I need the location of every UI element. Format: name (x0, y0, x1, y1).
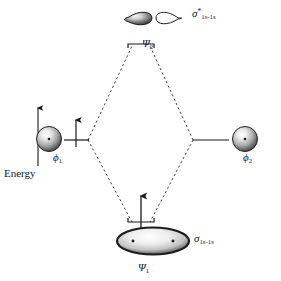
lobe-shaded-icon (125, 12, 153, 25)
correlation-line-phi1-psi1 (88, 140, 132, 222)
atomic-level-phi1 (64, 120, 89, 147)
psi1-subscript: 1 (146, 267, 149, 274)
lobe-white-icon (156, 12, 182, 23)
psi2-symbol: Ψ (142, 37, 150, 49)
sigma-star-subscript: 1s-1s (201, 13, 215, 20)
phi2-subscript: 2 (249, 157, 252, 164)
orbital-sphere-phi1-icon (37, 127, 62, 152)
molecular-orbital-label-psi1: Ψ1 (138, 262, 149, 273)
orbital-sphere-phi2-icon (233, 127, 258, 152)
correlation-line-phi2-psi1 (150, 140, 193, 222)
orbital-antibonding-lobes-icon (125, 12, 182, 25)
sigma-antibonding-label: σ*1s-1s (192, 8, 216, 19)
correlation-line-phi1-psi2 (88, 46, 132, 140)
correlation-line-phi2-psi2 (150, 46, 193, 140)
psi1-symbol: Ψ (138, 261, 146, 273)
mo-energy-level-diagram: Energy ϕ1 ϕ2 Ψ2 Ψ1 σ*1s-1s σ1s-1s (0, 0, 281, 281)
mo-diagram-canvas (0, 0, 281, 281)
phi1-subscript: 1 (59, 157, 62, 164)
sigma-bonding-label: σ1s-1s (194, 233, 214, 244)
atomic-orbital-label-phi1: ϕ1 (53, 152, 62, 163)
energy-axis-label: Energy (4, 168, 36, 179)
phi1-symbol: ϕ (53, 151, 59, 163)
molecular-orbital-label-psi2: Ψ2 (142, 38, 153, 49)
phi2-symbol: ϕ (243, 151, 249, 163)
nucleus-dot-left (132, 240, 135, 243)
orbital-bonding-ellipse-icon (117, 228, 189, 255)
psi2-subscript: 2 (150, 43, 153, 50)
correlation-lines (88, 46, 193, 222)
sigma-subscript: 1s-1s (199, 238, 213, 245)
nucleus-dot-right (172, 240, 175, 243)
atomic-orbital-label-phi2: ϕ2 (243, 152, 252, 163)
